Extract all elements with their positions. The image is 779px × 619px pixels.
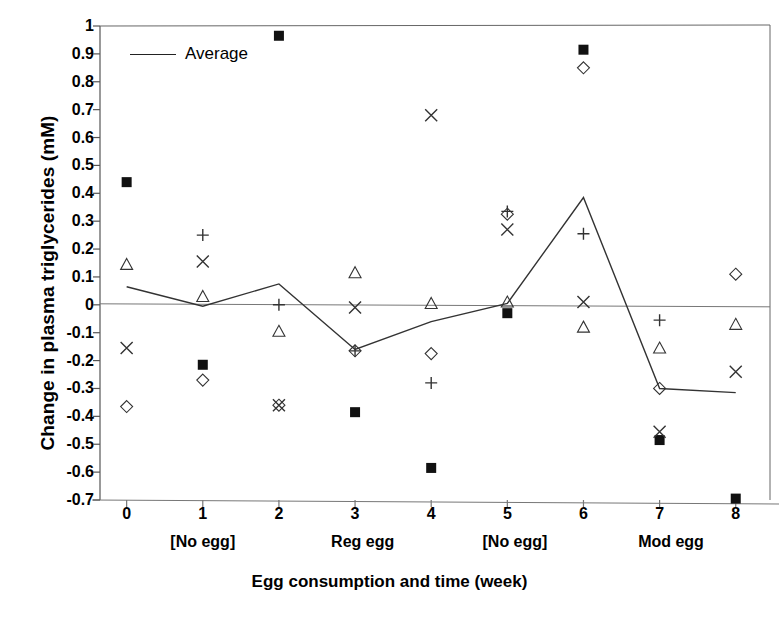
x-axis-group-label: Reg egg — [278, 533, 448, 551]
data-point-triangle — [349, 267, 361, 278]
x-axis-tick-label: 2 — [259, 505, 299, 523]
x-axis-group-label: Mod egg — [586, 533, 756, 551]
average-line — [127, 197, 736, 392]
figure-container: Change in plasma triglycerides (mM) 10.9… — [0, 0, 779, 619]
x-axis-tick-label: 6 — [563, 505, 603, 523]
data-point-triangle — [121, 258, 133, 269]
x-axis-tick-label: 5 — [487, 505, 527, 523]
x-axis-line — [92, 500, 779, 504]
legend-label-average: Average — [185, 44, 248, 64]
data-point-triangle — [273, 325, 285, 336]
plot-top-border — [100, 25, 770, 26]
data-point-square — [350, 407, 360, 417]
x-axis-tick-label: 4 — [411, 505, 451, 523]
plot-area — [0, 0, 779, 619]
data-point-triangle — [425, 297, 437, 308]
data-point-triangle — [577, 321, 589, 332]
data-point-cross — [121, 342, 133, 354]
legend: Average — [130, 44, 248, 64]
data-point-plus — [654, 314, 666, 326]
data-point-cross — [197, 256, 209, 268]
data-point-square — [502, 308, 512, 318]
x-axis-tick-label: 1 — [183, 505, 223, 523]
data-point-diamond — [730, 268, 742, 280]
x-axis-tick-label: 8 — [716, 505, 756, 523]
data-point-diamond — [121, 401, 133, 413]
data-point-diamond — [577, 62, 589, 74]
data-point-square — [731, 494, 741, 504]
data-point-cross — [501, 224, 513, 236]
data-point-square — [578, 45, 588, 55]
data-point-diamond — [425, 348, 437, 360]
x-axis-group-label: [No egg] — [430, 533, 600, 551]
data-point-plus — [425, 377, 437, 389]
data-point-square — [198, 360, 208, 370]
data-point-diamond — [197, 374, 209, 386]
data-point-cross — [425, 109, 437, 121]
data-point-triangle — [730, 318, 742, 329]
data-point-square — [655, 435, 665, 445]
x-axis-tick-label: 7 — [640, 505, 680, 523]
data-point-triangle — [654, 342, 666, 353]
data-point-square — [122, 177, 132, 187]
data-point-plus — [197, 229, 209, 241]
x-axis-title: Egg consumption and time (week) — [0, 572, 779, 592]
data-point-cross — [273, 399, 285, 411]
x-axis-tick-label: 0 — [107, 505, 147, 523]
data-point-square — [274, 31, 284, 41]
data-point-triangle — [197, 290, 209, 301]
x-axis-group-label: [No egg] — [118, 533, 288, 551]
data-point-plus — [273, 299, 285, 311]
data-point-cross — [349, 302, 361, 314]
legend-line-icon — [130, 54, 176, 55]
data-point-cross — [730, 366, 742, 378]
data-point-plus — [577, 228, 589, 240]
x-axis-tick-label: 3 — [335, 505, 375, 523]
data-point-square — [426, 463, 436, 473]
